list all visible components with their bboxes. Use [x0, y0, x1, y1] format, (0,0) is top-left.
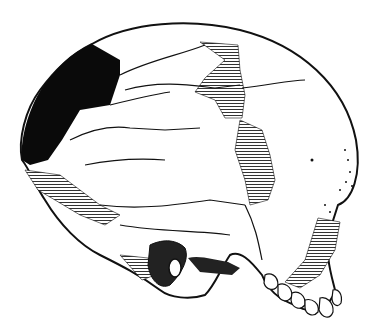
skull-illustration — [0, 0, 375, 335]
skull-drawing — [0, 0, 375, 335]
